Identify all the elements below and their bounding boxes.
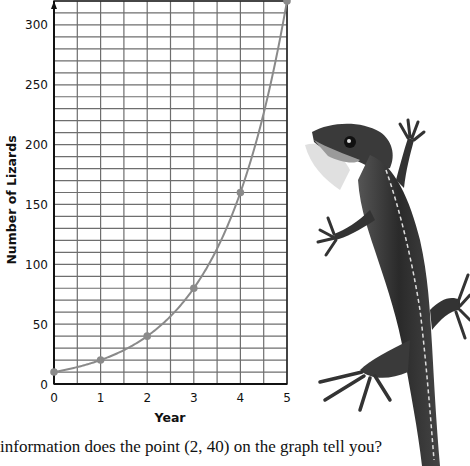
- data-point: [97, 356, 105, 364]
- data-point: [190, 284, 198, 292]
- chart-grid: [54, 1, 287, 384]
- y-tick-label: 100: [25, 258, 48, 272]
- y-tick-labels: 050100150200250300: [25, 18, 48, 391]
- y-tick-label: 250: [25, 78, 48, 92]
- x-tick-label: 3: [190, 391, 198, 405]
- lizard-image: [300, 110, 470, 466]
- y-tick-label: 0: [40, 378, 48, 392]
- data-point: [50, 368, 58, 376]
- data-point: [283, 0, 291, 5]
- lizard-population-chart: 050100150200250300 012345 Year Number of…: [0, 0, 300, 425]
- data-point: [143, 332, 151, 340]
- y-axis-title: Number of Lizards: [4, 135, 19, 264]
- y-tick-label: 300: [25, 18, 48, 32]
- x-tick-label: 4: [237, 391, 245, 405]
- x-axis-title: Year: [154, 410, 187, 425]
- x-tick-labels: 012345: [50, 391, 291, 405]
- data-point: [237, 189, 245, 197]
- x-tick-label: 1: [97, 391, 105, 405]
- y-tick-label: 150: [25, 198, 48, 212]
- x-tick-label: 2: [143, 391, 151, 405]
- x-tick-label: 5: [283, 391, 291, 405]
- question-text: information does the point (2, 40) on th…: [0, 437, 382, 457]
- y-tick-label: 50: [33, 318, 48, 332]
- y-tick-label: 200: [25, 138, 48, 152]
- x-tick-label: 0: [50, 391, 58, 405]
